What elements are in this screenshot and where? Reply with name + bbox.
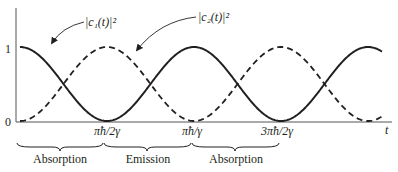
rabi-oscillation-chart: 1 0 |c₁(t)|² |c₂(t)|² πħ/2γ πħ/γ 3πħ/2γ … bbox=[0, 0, 398, 172]
brace-absorption-1 bbox=[17, 143, 103, 151]
c2-dashed-curve bbox=[20, 47, 382, 121]
region-emission: Emission bbox=[126, 152, 171, 166]
y-tick-0: 0 bbox=[5, 115, 11, 129]
c2-annotation: |c₂(t)|² bbox=[198, 10, 229, 24]
brace-absorption-2 bbox=[192, 143, 279, 151]
region-absorption-1: Absorption bbox=[33, 152, 87, 166]
c1-arrow-icon bbox=[52, 22, 84, 43]
x-tick-pi-hbar-2gamma: πħ/2γ bbox=[94, 124, 120, 138]
c1-annotation: |c₁(t)|² bbox=[85, 15, 116, 29]
region-absorption-2: Absorption bbox=[209, 152, 263, 166]
c1-solid-curve bbox=[20, 47, 382, 121]
y-tick-1: 1 bbox=[5, 42, 11, 56]
x-tick-3pi-hbar-2gamma: 3πħ/2γ bbox=[260, 124, 293, 138]
c2-arrow-icon bbox=[137, 17, 196, 50]
x-tick-pi-hbar-gamma: πħ/γ bbox=[182, 124, 202, 138]
brace-emission bbox=[104, 143, 191, 151]
x-axis-label: t bbox=[385, 123, 389, 137]
